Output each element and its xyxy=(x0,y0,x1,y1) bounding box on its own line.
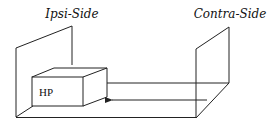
contra-side-wall xyxy=(196,27,229,118)
contra-side-label: Contra-Side xyxy=(194,7,267,21)
hp-label: HP xyxy=(39,86,53,98)
ipsi-contra-diagram: Ipsi-Side Contra-Side HP xyxy=(0,0,279,127)
ipsi-side-label: Ipsi-Side xyxy=(44,7,98,21)
hp-box: HP xyxy=(32,68,107,106)
ipsi-side-wall xyxy=(16,26,72,117)
